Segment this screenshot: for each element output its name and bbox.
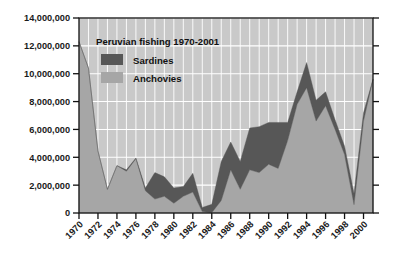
x-tick-label: 1970 xyxy=(63,219,85,241)
x-tick-label: 1988 xyxy=(234,219,256,241)
x-tick-label: 1976 xyxy=(120,219,142,241)
y-tick-label: 0 xyxy=(65,208,70,218)
y-tick-label: 2,000,000 xyxy=(29,181,70,191)
y-tick-label: 10,000,000 xyxy=(24,69,70,79)
x-axis: 1970197219741976197819801982198419861988… xyxy=(63,213,369,241)
legend-label-anchovies: Anchovies xyxy=(133,73,182,84)
y-tick-label: 6,000,000 xyxy=(29,125,70,135)
chart-figure: 02,000,0004,000,0006,000,0008,000,00010,… xyxy=(0,0,394,257)
x-tick-label: 1992 xyxy=(272,219,294,241)
y-tick-label: 8,000,000 xyxy=(29,97,70,107)
x-tick-label: 1986 xyxy=(215,219,237,241)
x-tick-label: 1994 xyxy=(291,219,313,241)
chart-title: Peruvian fishing 1970-2001 xyxy=(96,36,220,47)
x-tick-label: 1980 xyxy=(158,219,180,241)
legend-swatch-sardines xyxy=(101,54,123,65)
y-tick-label: 4,000,000 xyxy=(29,153,70,163)
y-tick-label: 12,000,000 xyxy=(24,41,70,51)
y-tick-label: 14,000,000 xyxy=(24,13,70,23)
x-tick-label: 1974 xyxy=(101,219,123,241)
legend-swatch-anchovies xyxy=(101,72,123,83)
legend-label-sardines: Sardines xyxy=(133,55,174,66)
x-tick-label: 1972 xyxy=(82,219,104,241)
x-tick-label: 1996 xyxy=(310,219,332,241)
x-tick-label: 1990 xyxy=(253,219,275,241)
x-tick-label: 1978 xyxy=(139,219,161,241)
x-tick-label: 2000 xyxy=(348,219,370,241)
peruvian-fishing-area-chart: 02,000,0004,000,0006,000,0008,000,00010,… xyxy=(0,0,394,257)
x-tick-label: 1998 xyxy=(329,219,351,241)
x-tick-label: 1982 xyxy=(177,219,199,241)
x-tick-label: 1984 xyxy=(196,219,218,241)
